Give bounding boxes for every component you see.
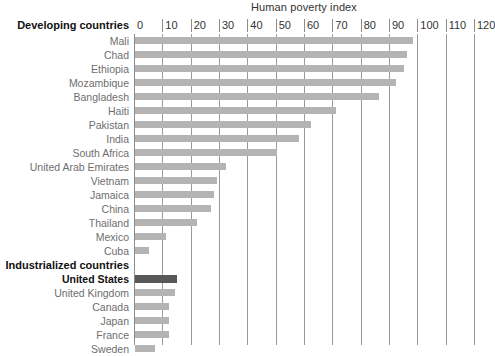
bar [135, 205, 211, 212]
chart-row: Sweden [0, 342, 474, 356]
chart-row: Haiti [0, 104, 474, 118]
x-tick-label-60: 60 [304, 19, 319, 31]
chart-row: Cuba [0, 244, 474, 258]
row-label: Mozambique [69, 76, 129, 90]
bar [135, 317, 169, 324]
x-tick-label-120: 120 [474, 19, 495, 31]
chart-row: Canada [0, 300, 474, 314]
bar [135, 37, 413, 44]
chart-row: Mali [0, 34, 474, 48]
row-label: Sweden [91, 342, 129, 356]
x-axis-tick-labels: Developing countries 0102030405060708090… [0, 18, 474, 34]
row-label: India [106, 132, 129, 146]
row-label: South Africa [72, 146, 129, 160]
row-label: Mexico [96, 230, 129, 244]
bar [135, 163, 226, 170]
row-label: Vietnam [91, 174, 129, 188]
bar [135, 149, 277, 156]
chart-row: Vietnam [0, 174, 474, 188]
x-tick-label-110: 110 [446, 19, 467, 31]
x-tick-label-30: 30 [219, 19, 234, 31]
chart-row: South Africa [0, 146, 474, 160]
row-label: Jamaica [90, 188, 129, 202]
x-tick-label-80: 80 [361, 19, 376, 31]
row-label: Japan [100, 314, 129, 328]
bar [135, 79, 396, 86]
chart-row: France [0, 328, 474, 342]
chart-row: Chad [0, 48, 474, 62]
chart-row: Pakistan [0, 118, 474, 132]
bar [135, 93, 379, 100]
chart-row: China [0, 202, 474, 216]
x-tick-label-0: 0 [134, 19, 143, 31]
x-tick-label-50: 50 [276, 19, 291, 31]
row-label: Haiti [108, 104, 129, 118]
row-label: Industrialized countries [6, 258, 129, 272]
row-label: Pakistan [89, 118, 129, 132]
chart-row: Jamaica [0, 188, 474, 202]
row-label: China [102, 202, 129, 216]
chart-row: United Kingdom [0, 286, 474, 300]
x-tick-label-90: 90 [389, 19, 404, 31]
bar-rows: MaliChadEthiopiaMozambiqueBangladeshHait… [0, 34, 474, 356]
group-header-row: Industrialized countries [0, 258, 474, 272]
row-label: Thailand [89, 216, 129, 230]
row-label: Chad [104, 48, 129, 62]
bar [135, 275, 177, 283]
chart-row: Japan [0, 314, 474, 328]
x-tick-label-10: 10 [162, 19, 177, 31]
bar [135, 247, 149, 254]
row-label: Canada [92, 300, 129, 314]
bar [135, 107, 336, 114]
gridline-120 [474, 34, 475, 345]
row-label: Mali [110, 34, 129, 48]
row-label: United States [62, 272, 129, 286]
chart-row: Mozambique [0, 76, 474, 90]
bar [135, 51, 407, 58]
bar [135, 191, 214, 198]
row-label: United Arab Emirates [30, 160, 129, 174]
bar [135, 331, 169, 338]
bar [135, 289, 175, 296]
row-label: Bangladesh [74, 90, 129, 104]
bar [135, 219, 197, 226]
row-label: United Kingdom [54, 286, 129, 300]
chart-row: United States [0, 272, 474, 286]
bar [135, 135, 299, 142]
x-tick-label-40: 40 [247, 19, 262, 31]
row-label: France [96, 328, 129, 342]
chart-row: India [0, 132, 474, 146]
bar [135, 303, 169, 310]
chart-row: United Arab Emirates [0, 160, 474, 174]
bar [135, 233, 166, 240]
x-tick-label-70: 70 [332, 19, 347, 31]
chart-row: Ethiopia [0, 62, 474, 76]
chart-row: Thailand [0, 216, 474, 230]
bar [135, 345, 155, 352]
developing-countries-group-header: Developing countries [17, 19, 129, 31]
row-label: Ethiopia [91, 62, 129, 76]
chart-row: Mexico [0, 230, 474, 244]
chart-row: Bangladesh [0, 90, 474, 104]
bar [135, 65, 404, 72]
row-label: Cuba [104, 244, 129, 258]
bar [135, 177, 217, 184]
x-tick-label-100: 100 [417, 19, 438, 31]
bar [135, 121, 311, 128]
chart-title: Human poverty index [134, 1, 474, 13]
x-tick-label-20: 20 [191, 19, 206, 31]
